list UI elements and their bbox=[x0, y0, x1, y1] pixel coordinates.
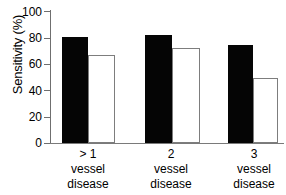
plot-area bbox=[50, 11, 284, 143]
bar-group-1-open bbox=[88, 55, 115, 143]
y-tick-label-20: 20 bbox=[8, 111, 42, 123]
x-category-label-3-line3: disease bbox=[211, 177, 286, 192]
x-category-label-1-line2: vessel bbox=[45, 162, 131, 177]
y-tick-label-60: 60 bbox=[8, 58, 42, 70]
x-category-label-3-line1: 3 bbox=[211, 147, 286, 162]
y-tick-label-100: 100 bbox=[8, 6, 42, 18]
y-tick-label-0: 0 bbox=[8, 137, 42, 149]
x-category-label-2-line2: vessel bbox=[128, 162, 214, 177]
x-category-label-1: > 1 vessel disease bbox=[45, 147, 131, 192]
x-category-label-1-line3: disease bbox=[45, 177, 131, 192]
x-category-label-2-line1: 2 bbox=[128, 147, 214, 162]
x-category-label-3: 3 vessel disease bbox=[211, 147, 286, 192]
bar-group-3-open bbox=[253, 78, 278, 143]
bar-group-2-filled bbox=[145, 35, 172, 143]
x-axis-line bbox=[50, 143, 284, 144]
y-tick-label-80: 80 bbox=[8, 32, 42, 44]
y-tick-label-40: 40 bbox=[8, 85, 42, 97]
x-category-label-3-line2: vessel bbox=[211, 162, 286, 177]
bar-group-3-filled bbox=[228, 45, 253, 143]
x-category-label-1-line1: > 1 bbox=[45, 147, 131, 162]
bar-group-1-filled bbox=[62, 37, 88, 143]
x-category-label-2-line3: disease bbox=[128, 177, 214, 192]
bar-group-2-open bbox=[172, 48, 200, 143]
x-category-label-2: 2 vessel disease bbox=[128, 147, 214, 192]
bar-chart-figure: Sensitivity (%) 0 20 40 60 80 100 > 1 ve… bbox=[0, 0, 286, 195]
